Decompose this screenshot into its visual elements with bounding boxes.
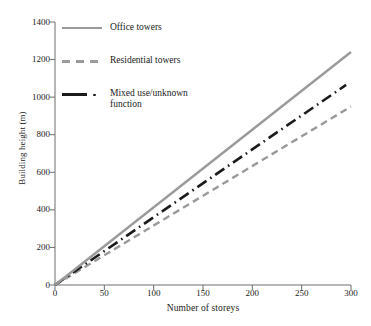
legend-item-mixed-use: Mixed use/unknown function [62,88,188,110]
x-tick-label: 100 [134,289,174,298]
legend-label: Residential towers [106,55,180,66]
dashed-line-swatch-icon [62,55,106,67]
chart-figure: 1400 1200 1000 800 600 400 200 0 0 50 10… [0,0,371,326]
legend-label: Office towers [106,22,162,33]
x-axis-tick-labels: 0 50 100 150 200 250 300 [0,0,371,326]
legend-label: Mixed use/unknown function [106,88,188,110]
solid-line-swatch-icon [62,22,106,34]
x-tick-label: 0 [35,289,75,298]
x-tick-label: 300 [331,289,371,298]
legend-item-office-towers: Office towers [62,22,162,34]
x-tick-label: 200 [232,289,272,298]
x-tick-label: 50 [84,289,124,298]
x-tick-label: 150 [183,289,223,298]
y-axis-title: Building height (m) [17,73,27,223]
legend-item-residential-towers: Residential towers [62,55,180,67]
dash-dot-line-swatch-icon [62,88,106,100]
x-axis-title: Number of storeys [55,303,351,313]
x-tick-label: 250 [282,289,322,298]
